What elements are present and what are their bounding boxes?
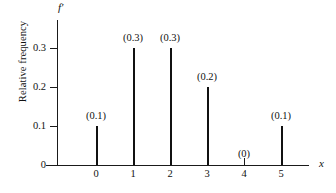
x-tick-label-3: 3: [196, 168, 218, 179]
y-axis-symbol: f′: [58, 1, 63, 13]
data-label-0: (0.1): [74, 110, 118, 121]
x-axis-line: [46, 165, 309, 166]
y-tick-2: [50, 87, 58, 88]
y-tick-label-1: 0.1: [6, 120, 46, 131]
x-tick-label-5: 5: [270, 168, 292, 179]
data-spike-0: [96, 126, 98, 165]
y-tick-label-3: 0.3: [6, 42, 46, 53]
data-label-5: (0.1): [259, 110, 303, 121]
y-tick-label-2: 0.2: [6, 81, 46, 92]
data-spike-2: [170, 48, 172, 165]
y-axis-title: Relative frequency: [17, 0, 28, 132]
y-tick-label-0: 0: [6, 159, 46, 170]
y-tick-1: [50, 126, 58, 127]
x-tick-label-2: 2: [159, 168, 181, 179]
data-spike-3: [207, 87, 209, 165]
relative-frequency-chart: Relative frequency f′ x 0 0.1 0.2 0.3 0 …: [0, 0, 336, 193]
x-tick-label-4: 4: [233, 168, 255, 179]
x-tick-label-1: 1: [122, 168, 144, 179]
data-label-3: (0.2): [185, 71, 229, 82]
data-label-2: (0.3): [148, 32, 192, 43]
y-axis-line: [57, 20, 58, 166]
data-label-4: (0): [222, 148, 266, 159]
data-spike-5: [281, 126, 283, 165]
y-tick-0: [50, 165, 58, 166]
x-tick-label-0: 0: [85, 168, 107, 179]
x-tick-4: [244, 158, 245, 165]
x-axis-symbol: x: [319, 157, 324, 169]
y-tick-3: [50, 48, 58, 49]
data-spike-1: [133, 48, 135, 165]
